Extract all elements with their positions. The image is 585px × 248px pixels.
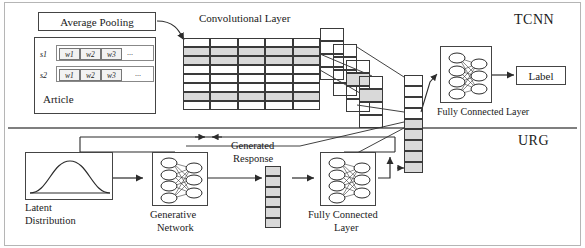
conv-cell <box>293 38 320 47</box>
conv-cell <box>238 56 265 65</box>
conv-cell <box>293 56 320 65</box>
response-cell <box>265 166 281 176</box>
tcnn-fc-label: Fully Connected Layer <box>437 106 529 117</box>
conv-cell <box>210 56 237 65</box>
generated-response-line1: Generated <box>231 140 274 151</box>
arrow-vector-to-fc <box>421 74 437 112</box>
sentence-label-s2: s2 <box>40 71 47 80</box>
conv-cell <box>183 56 210 65</box>
conv-layer-label: Convolutional Layer <box>199 12 290 24</box>
conv-cell <box>265 92 292 101</box>
conv-cell <box>210 65 237 74</box>
word-cell: w1 <box>59 69 80 81</box>
shared-vector-cell <box>404 108 423 119</box>
conv-cell <box>238 38 265 47</box>
shared-vector-cell <box>404 129 423 140</box>
tcnn-fc-network <box>441 47 493 104</box>
article-box: s1 w1 w2 w3 ... s2 w1 <box>34 37 156 114</box>
latent-label-line1: Latent <box>25 202 52 213</box>
conv-cell <box>183 101 210 110</box>
feature-map-cell <box>320 28 344 41</box>
conv-cell <box>183 92 210 101</box>
urg-fc-label-line2: Layer <box>334 222 358 233</box>
word-cell: w2 <box>80 48 101 60</box>
conv-cell <box>238 83 265 92</box>
convolutional-grid <box>183 38 320 110</box>
conv-cell <box>293 101 320 110</box>
conv-cell <box>183 47 210 56</box>
generative-network-box <box>152 152 208 206</box>
tcnn-fc-box <box>440 46 492 103</box>
feature-map-cell <box>359 76 383 89</box>
shared-vector-cell <box>404 162 423 173</box>
word-label: w3 <box>107 71 116 80</box>
conv-cell <box>293 92 320 101</box>
conv-cell <box>210 83 237 92</box>
word-label: w3 <box>107 50 116 59</box>
generated-response-vector <box>265 166 281 228</box>
feature-map-cell <box>333 44 357 57</box>
word-label: w2 <box>86 71 95 80</box>
conv-cell <box>210 38 237 47</box>
tcnn-section-label: TCNN <box>514 12 554 28</box>
conv-cell <box>238 65 265 74</box>
word-ellipsis: ... <box>135 69 141 78</box>
conv-cell <box>238 47 265 56</box>
sentence-strip-s1: w1 w2 w3 ... <box>56 45 154 61</box>
word-ellipsis: ... <box>127 48 133 57</box>
arrow-pooling-to-conv <box>157 21 184 40</box>
urg-fc-label-line1: Fully Connected <box>308 209 378 220</box>
conv-cell <box>183 74 210 83</box>
shared-feature-vector <box>404 75 423 173</box>
generated-response-line2: Response <box>233 153 273 164</box>
urg-fc-box <box>320 152 376 206</box>
latent-label-line2: Distribution <box>25 215 76 226</box>
conv-cell <box>265 38 292 47</box>
conv-cell <box>293 74 320 83</box>
conv-cell <box>210 47 237 56</box>
word-cell: w3 <box>101 69 122 81</box>
feature-map-cell <box>359 102 383 115</box>
word-cell: w2 <box>80 69 101 81</box>
output-label-text: Label <box>528 70 553 82</box>
conv-cell <box>265 101 292 110</box>
shared-vector-cell <box>404 75 423 86</box>
conv-cell <box>238 101 265 110</box>
conv-cell <box>210 101 237 110</box>
gaussian-curve-icon <box>26 153 114 201</box>
response-cell <box>265 207 281 217</box>
shared-vector-cell <box>404 119 423 130</box>
conv-cell <box>265 83 292 92</box>
response-cell <box>265 218 281 228</box>
conv-cell <box>183 38 210 47</box>
generative-label-line2: Network <box>157 222 194 233</box>
feature-map-cell <box>346 60 370 73</box>
shared-vector-cell <box>404 151 423 162</box>
sentence-strip-s2: w1 w2 w3 ... <box>56 66 154 82</box>
shared-vector-cell <box>404 97 423 108</box>
conv-cell <box>265 65 292 74</box>
conv-cell <box>238 74 265 83</box>
conv-cell <box>293 65 320 74</box>
average-pooling-label: Average Pooling <box>60 16 133 28</box>
word-cell: w1 <box>59 48 80 60</box>
conv-cell <box>265 56 292 65</box>
generative-label-line1: Generative <box>150 209 196 220</box>
generative-network-graph <box>153 153 209 207</box>
response-cell <box>265 187 281 197</box>
conv-cell <box>183 83 210 92</box>
figure-canvas: TCNN Average Pooling s1 w1 w2 w3 ... <box>0 0 585 248</box>
sentence-label-s1: s1 <box>40 50 47 59</box>
conv-cell <box>293 83 320 92</box>
latent-distribution-box <box>25 152 113 200</box>
conv-cell <box>265 74 292 83</box>
response-cell <box>265 176 281 186</box>
article-label: Article <box>43 93 74 105</box>
conv-cell <box>238 92 265 101</box>
shared-vector-cell <box>404 86 423 97</box>
conv-cell <box>210 92 237 101</box>
feature-map-cell <box>359 89 383 102</box>
shared-vector-cell <box>404 140 423 151</box>
conv-cell <box>265 47 292 56</box>
feature-map-stacks <box>320 28 390 118</box>
